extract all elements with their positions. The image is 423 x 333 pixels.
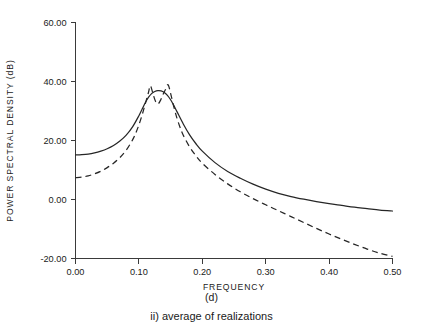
figure-panel: -20.000.0020.0040.0060.000.000.100.200.3…	[0, 0, 423, 333]
series-line-2	[76, 85, 393, 257]
spectral-density-chart: -20.000.0020.0040.0060.000.000.100.200.3…	[0, 0, 423, 333]
x-tick-label: 0.30	[257, 267, 275, 277]
x-tick-label: 0.50	[384, 267, 402, 277]
x-axis-title: FREQUENCY	[203, 282, 265, 292]
x-tick-label: 0.40	[320, 267, 338, 277]
axes	[71, 23, 393, 264]
y-tick-label: 60.00	[44, 18, 67, 28]
data-series	[76, 85, 393, 257]
x-tick-label: 0.10	[130, 267, 148, 277]
y-tick-label: 0.00	[49, 195, 67, 205]
series-line-1	[76, 91, 393, 211]
y-tick-label: 20.00	[44, 136, 67, 146]
axis-tick-labels: -20.000.0020.0040.0060.000.000.100.200.3…	[5, 18, 401, 292]
panel-label: (d)	[0, 291, 423, 303]
figure-subcaption: ii) average of realizations	[0, 310, 423, 322]
x-tick-label: 0.00	[67, 267, 85, 277]
y-axis-title: POWER SPECTRAL DENSITY (dB)	[5, 59, 15, 221]
y-tick-label: -20.00	[40, 254, 66, 264]
y-tick-label: 40.00	[44, 77, 67, 87]
x-tick-label: 0.20	[193, 267, 211, 277]
